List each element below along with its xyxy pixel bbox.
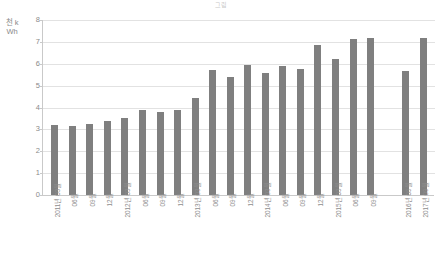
bar bbox=[192, 98, 199, 195]
x-label-slot: 06월 bbox=[63, 198, 81, 262]
bar bbox=[314, 45, 321, 195]
x-label-slot: 06월 bbox=[343, 198, 361, 262]
x-tick-label: 2015년 03월 bbox=[335, 182, 343, 217]
x-label-slot: 12월 bbox=[238, 198, 256, 262]
x-label-slot: 09월 bbox=[361, 198, 379, 262]
x-tick-label: 12월 bbox=[106, 193, 114, 206]
bar-slot bbox=[344, 20, 362, 195]
x-label-slot: 09월 bbox=[80, 198, 98, 262]
bar-slot bbox=[397, 20, 415, 195]
x-tick-label: 09월 bbox=[370, 193, 378, 206]
bar-slot bbox=[134, 20, 152, 195]
x-label-slot: 2012년 03월 bbox=[115, 198, 133, 262]
bar-slot bbox=[116, 20, 134, 195]
bar bbox=[279, 66, 286, 195]
bar bbox=[244, 65, 251, 195]
x-tick-label: 2012년 03월 bbox=[124, 182, 132, 217]
bar-slot bbox=[81, 20, 99, 195]
bar-slot bbox=[274, 20, 292, 195]
y-tick-label: 0 bbox=[18, 191, 40, 199]
bar bbox=[69, 126, 76, 195]
x-tick-label: 2017년 09월 bbox=[422, 182, 430, 217]
x-tick-label: 12월 bbox=[317, 193, 325, 206]
x-tick-label: 06월 bbox=[212, 193, 220, 206]
x-label-slot: 2014년 03월 bbox=[256, 198, 274, 262]
y-tick-label: 3 bbox=[18, 125, 40, 133]
y-tick-label: 2 bbox=[18, 147, 40, 155]
y-tick-label: 6 bbox=[18, 60, 40, 68]
bar-series bbox=[43, 20, 435, 195]
x-label-slot: 06월 bbox=[273, 198, 291, 262]
x-tick-label: 09월 bbox=[159, 193, 167, 206]
bar bbox=[227, 77, 234, 195]
bar bbox=[350, 39, 357, 195]
bar bbox=[104, 121, 111, 195]
x-tick-label: 06월 bbox=[352, 193, 360, 206]
x-tick-label: 12월 bbox=[247, 193, 255, 206]
bar-slot bbox=[151, 20, 169, 195]
y-tick-label: 4 bbox=[18, 104, 40, 112]
y-tick-label: 5 bbox=[18, 82, 40, 90]
bar-slot bbox=[186, 20, 204, 195]
x-label-slot: 06월 bbox=[203, 198, 221, 262]
x-tick-label: 09월 bbox=[299, 193, 307, 206]
x-label-slot: 2017년 09월 bbox=[413, 198, 431, 262]
bar bbox=[402, 71, 409, 195]
x-label-slot: 12월 bbox=[98, 198, 116, 262]
bar bbox=[139, 110, 146, 195]
x-tick-label: 09월 bbox=[229, 193, 237, 206]
x-label-slot: 09월 bbox=[291, 198, 309, 262]
x-label-slot bbox=[378, 198, 396, 262]
x-label-slot: 06월 bbox=[133, 198, 151, 262]
bar bbox=[86, 124, 93, 195]
bar-slot bbox=[414, 20, 432, 195]
x-tick-label: 2016년 09월 bbox=[405, 182, 413, 217]
bar bbox=[297, 69, 304, 195]
y-tick-label: 1 bbox=[18, 169, 40, 177]
x-label-slot: 12월 bbox=[168, 198, 186, 262]
x-tick-label: 2014년 03월 bbox=[264, 182, 272, 217]
bar bbox=[262, 73, 269, 196]
bar-slot bbox=[99, 20, 117, 195]
bar-slot bbox=[362, 20, 380, 195]
bar-slot bbox=[257, 20, 275, 195]
page-title: 그림 bbox=[0, 0, 442, 10]
x-tick-label: 2011년 03월 bbox=[54, 183, 62, 218]
y-tick-label: 8 bbox=[18, 16, 40, 24]
bar-slot bbox=[292, 20, 310, 195]
bar-slot bbox=[204, 20, 222, 195]
x-tick-label: 2013년 03월 bbox=[194, 182, 202, 217]
bar-slot bbox=[327, 20, 345, 195]
x-tick-label: 09월 bbox=[89, 193, 97, 206]
x-label-slot: 2013년 03월 bbox=[185, 198, 203, 262]
bar-slot bbox=[239, 20, 257, 195]
bar bbox=[174, 110, 181, 195]
y-axis-tick-labels: 012345678 bbox=[14, 20, 40, 196]
x-tick-label: 06월 bbox=[282, 193, 290, 206]
bar bbox=[209, 70, 216, 195]
chart-container: 그림 천 kWh 012345678 2011년 03월06월09월12월201… bbox=[0, 0, 442, 263]
x-tick-label: 06월 bbox=[142, 193, 150, 206]
bar bbox=[367, 38, 374, 196]
x-label-slot: 12월 bbox=[308, 198, 326, 262]
bar-slot bbox=[64, 20, 82, 195]
y-tick-label: 7 bbox=[18, 38, 40, 46]
bar-slot bbox=[169, 20, 187, 195]
bar-slot bbox=[221, 20, 239, 195]
x-label-slot: 09월 bbox=[220, 198, 238, 262]
plot-area bbox=[42, 20, 434, 196]
x-tick-label: 06월 bbox=[71, 193, 79, 206]
x-tick-label: 12월 bbox=[177, 193, 185, 206]
bar-slot bbox=[379, 20, 397, 195]
bar-slot bbox=[46, 20, 64, 195]
x-label-slot: 2016년 09월 bbox=[396, 198, 414, 262]
bar bbox=[420, 38, 427, 196]
bar bbox=[157, 112, 164, 195]
x-label-slot: 2015년 03월 bbox=[326, 198, 344, 262]
bar bbox=[332, 59, 339, 195]
bar-slot bbox=[309, 20, 327, 195]
x-label-slot: 2011년 03월 bbox=[45, 198, 63, 262]
x-axis-tick-labels: 2011년 03월06월09월12월2012년 03월06월09월12월2013… bbox=[42, 198, 434, 262]
x-label-slot: 09월 bbox=[150, 198, 168, 262]
